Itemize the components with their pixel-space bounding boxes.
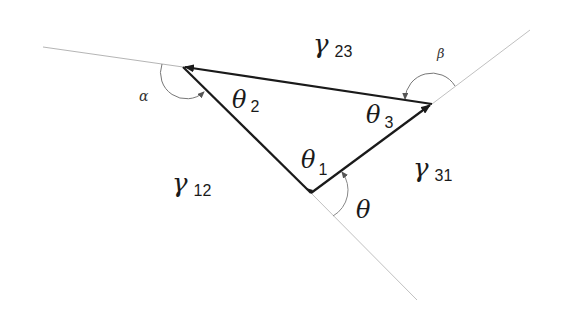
edge-v2-to-v1 (183, 67, 311, 193)
theta-arc (333, 172, 348, 216)
edge-v3-to-v2 (185, 67, 432, 104)
gamma31-label: γ31 (413, 153, 452, 184)
gamma23-label: γ23 (313, 29, 352, 60)
theta3-label: θ3 (366, 101, 393, 131)
gamma12-label: γ12 (172, 168, 211, 199)
extension-line-right (432, 30, 530, 104)
theta-exterior-label: θ (356, 196, 371, 224)
beta-arc (405, 73, 455, 99)
alpha-label: α (139, 88, 149, 104)
beta-label: β (436, 46, 445, 61)
triangle-diagram: θ2 θ3 θ1 γ23 γ12 γ31 α β θ (0, 0, 563, 333)
theta1-label: θ1 (301, 146, 327, 178)
theta2-label: θ2 (232, 86, 259, 115)
